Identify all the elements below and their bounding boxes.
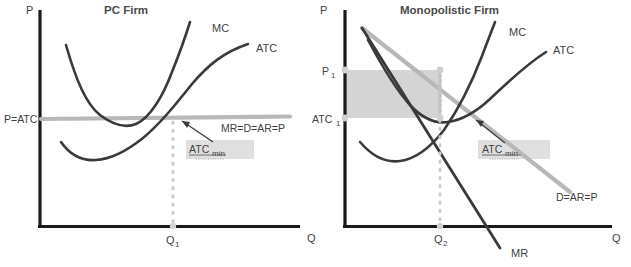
mr-label-right: MR <box>511 247 528 259</box>
atc-label-right: ATC <box>553 44 574 56</box>
atc-min-arrow-head-left <box>182 121 190 128</box>
atc-label-left: ATC <box>256 42 277 54</box>
q2-axis-marker <box>437 223 443 229</box>
mc-label-left: MC <box>212 22 229 34</box>
p1-quantity-marker <box>437 67 444 74</box>
atc1-axis-base: ATC <box>312 113 333 125</box>
q2-tick-sub: 2 <box>443 239 448 248</box>
price-line-label-left: MR=D=AR=P <box>221 122 285 134</box>
figure-canvas: PC Firm P Q MC ATC P=ATC MR=D=AR=P Q 1 A… <box>0 0 631 267</box>
price-axis-label-left: P=ATC <box>4 113 38 125</box>
p1-axis-label: P 1 <box>322 65 336 80</box>
atc1-axis-marker <box>342 115 349 122</box>
demand-label-right: D=AR=P <box>556 191 597 203</box>
atc-min-sub-left: min <box>212 149 225 158</box>
panel-pc-firm: PC Firm P Q MC ATC P=ATC MR=D=AR=P Q 1 A… <box>4 4 316 249</box>
panel-monopolistic-firm: Monopolistic Firm P Q MC ATC D=AR=P MR P… <box>312 4 621 259</box>
economics-diagram: PC Firm P Q MC ATC P=ATC MR=D=AR=P Q 1 A… <box>0 0 631 267</box>
atc-min-base-left: ATC <box>189 143 210 155</box>
atc-min-sub-right: min <box>505 149 518 158</box>
p1-axis-sub: 1 <box>331 71 336 80</box>
q1-tick-label: Q 1 <box>166 234 180 249</box>
panel-title-pc-firm: PC Firm <box>104 4 148 16</box>
p1-axis-base: P <box>322 65 329 77</box>
mc-label-right: MC <box>509 26 526 38</box>
q2-tick-base: Q <box>434 233 443 245</box>
atc1-quantity-marker <box>437 115 444 122</box>
panel-title-monopolistic-firm: Monopolistic Firm <box>400 4 499 16</box>
q1-axis-marker <box>170 223 176 229</box>
atc1-axis-sub: 1 <box>336 119 341 128</box>
p1-axis-marker <box>342 67 349 74</box>
x-axis-label-left: Q <box>307 232 316 244</box>
atc-min-base-right: ATC <box>482 143 503 155</box>
y-axis-label-left: P <box>26 4 33 16</box>
q2-tick-label: Q 2 <box>434 233 448 248</box>
q1-tick-base: Q <box>166 234 175 246</box>
atc1-axis-label: ATC 1 <box>312 113 341 128</box>
y-axis-label-right: P <box>320 4 327 16</box>
q1-tick-sub: 1 <box>175 240 180 249</box>
x-axis-label-right: Q <box>612 232 621 244</box>
